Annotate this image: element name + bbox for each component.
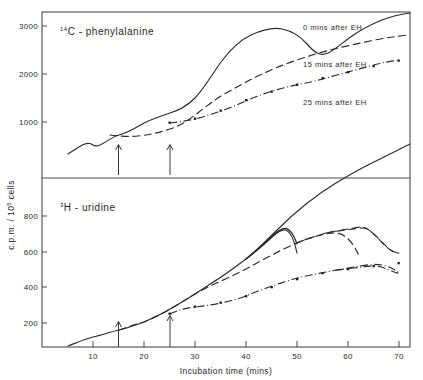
data-point-marker — [245, 99, 247, 101]
data-point-marker — [398, 60, 400, 62]
data-point-marker — [373, 65, 375, 67]
tick-label-x-50: 50 — [292, 352, 302, 361]
data-point-marker — [347, 268, 349, 270]
data-point-marker — [322, 77, 324, 79]
tick-label-upper-3000: 3000 — [19, 22, 38, 31]
tick-label-lower-400: 400 — [24, 283, 38, 292]
tick-label-upper-1000: 1000 — [19, 118, 38, 127]
figure-root: 3000 2000 1000 800 600 400 200 10 20 30 … — [0, 0, 423, 380]
curve-upper-15mins — [110, 35, 408, 136]
x-axis-label: Incubation time (mins) — [180, 366, 272, 376]
upper-y-axis: 3000 2000 1000 — [19, 22, 47, 127]
data-point-marker — [347, 71, 349, 73]
tick-label-upper-2000: 2000 — [19, 70, 38, 79]
data-point-marker — [322, 272, 324, 274]
data-point-marker — [194, 118, 196, 120]
data-point-marker — [398, 262, 400, 264]
event-arrow-15mins-lower — [116, 322, 122, 348]
event-arrow-25mins-lower — [167, 316, 173, 348]
lower-panel-curves — [68, 144, 410, 346]
tick-label-lower-200: 200 — [24, 319, 38, 328]
tick-label-x-20: 20 — [139, 352, 149, 361]
tick-label-x-10: 10 — [88, 352, 98, 361]
tick-label-lower-600: 600 — [24, 248, 38, 257]
y-axis-label: c.p.m. / 105 cells — [6, 180, 16, 250]
data-point-marker — [194, 306, 196, 308]
tick-label-x-30: 30 — [190, 352, 200, 361]
curve-lower-0mins — [68, 230, 297, 346]
data-point-marker — [220, 302, 222, 304]
data-point-marker — [245, 295, 247, 297]
svg-text:c.p.m. / 105 cells: c.p.m. / 105 cells — [6, 180, 16, 250]
upper-panel-title-sup: 14 — [60, 26, 68, 32]
tick-label-x-70: 70 — [394, 352, 404, 361]
data-point-marker — [169, 122, 171, 124]
x-axis: 10 20 30 40 50 60 70 — [88, 341, 404, 361]
upper-panel-title-main: C - phenylalanine — [68, 26, 154, 37]
lower-panel-title: 3H - uridine — [60, 202, 115, 213]
lower-panel-title-main: H - uridine — [64, 202, 116, 213]
tick-label-x-60: 60 — [343, 352, 353, 361]
data-point-marker — [169, 313, 171, 315]
lower-y-axis: 800 600 400 200 — [24, 212, 47, 328]
series-label-15mins: 15 mins after EH — [303, 60, 367, 69]
curve-upper-25mins — [170, 60, 399, 123]
data-point-marker — [296, 278, 298, 280]
event-arrow-15mins — [116, 145, 122, 176]
series-label-0mins: 0 mins after EH — [303, 23, 362, 32]
tick-label-lower-800: 800 — [24, 212, 38, 221]
curve-lower-15mins-c — [326, 228, 399, 253]
curve-lower-15mins-b — [297, 227, 399, 253]
data-point-marker — [271, 91, 273, 93]
curve-lower-0mins-c — [246, 144, 410, 259]
data-point-marker — [271, 286, 273, 288]
curve-lower-15mins — [119, 233, 360, 330]
tick-label-x-40: 40 — [241, 352, 251, 361]
curve-upper-25mins-group — [169, 60, 400, 124]
series-label-25mins: 25 mins after EH — [303, 98, 367, 107]
y-axis-label-suffix: cells — [6, 180, 16, 202]
upper-panel-title: 14C - phenylalanine — [60, 26, 154, 37]
data-point-marker — [373, 265, 375, 267]
data-point-marker — [296, 84, 298, 86]
y-axis-label-prefix: c.p.m. / 10 — [6, 206, 16, 250]
data-point-marker — [220, 110, 222, 112]
event-arrow-25mins — [167, 145, 173, 176]
